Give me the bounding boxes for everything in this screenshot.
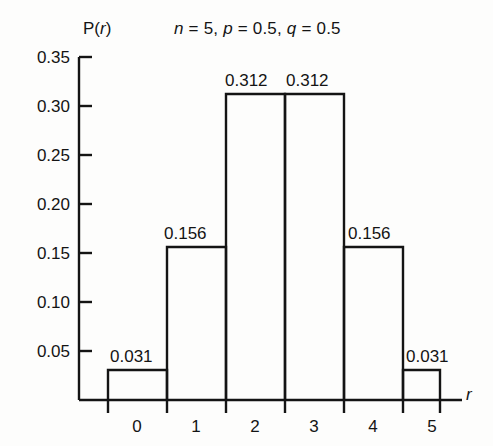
y-tick-label: 0.20 bbox=[12, 196, 70, 213]
chart-title: n = 5, p = 0.5, q = 0.5 bbox=[174, 20, 341, 37]
x-tick-label: 1 bbox=[181, 418, 211, 435]
y-tick-label: 0.05 bbox=[12, 343, 70, 360]
bar-value-label-r1: 0.156 bbox=[164, 225, 207, 242]
binomial-distribution-figure: P(r) n = 5, p = 0.5, q = 0.5 r 0.35 0.30… bbox=[0, 0, 493, 446]
x-tick-label: 4 bbox=[358, 418, 388, 435]
bar-r3 bbox=[285, 94, 344, 400]
x-tick-label: 5 bbox=[417, 418, 447, 435]
bar-value-label-r3: 0.312 bbox=[286, 72, 329, 89]
y-tick-label: 0.10 bbox=[12, 294, 70, 311]
bar-r5 bbox=[403, 370, 440, 400]
x-tick-label: 0 bbox=[122, 418, 152, 435]
bar-value-label-r2: 0.312 bbox=[225, 72, 268, 89]
bar-value-label-r4: 0.156 bbox=[348, 225, 391, 242]
bar-r0 bbox=[108, 370, 167, 400]
y-tick-label: 0.35 bbox=[12, 49, 70, 66]
histogram-bars bbox=[108, 94, 440, 400]
x-axis-label: r bbox=[466, 386, 472, 403]
y-axis-label: P(r) bbox=[83, 20, 111, 37]
bar-r1 bbox=[167, 247, 226, 400]
y-tick-label: 0.30 bbox=[12, 98, 70, 115]
x-tick-label: 2 bbox=[240, 418, 270, 435]
y-tick-label: 0.25 bbox=[12, 147, 70, 164]
x-axis-ticks bbox=[108, 400, 440, 413]
plot-canvas bbox=[0, 0, 493, 446]
bar-r2 bbox=[226, 94, 285, 400]
bar-value-label-r0: 0.031 bbox=[110, 348, 153, 365]
y-axis-ticks bbox=[79, 57, 92, 351]
x-tick-label: 3 bbox=[299, 418, 329, 435]
bar-value-label-r5: 0.031 bbox=[406, 348, 449, 365]
bar-r4 bbox=[344, 247, 403, 400]
y-tick-label: 0.15 bbox=[12, 245, 70, 262]
